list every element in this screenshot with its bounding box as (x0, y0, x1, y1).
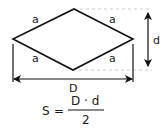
formula-denominator: 2 (82, 113, 90, 127)
formula-numerator: D · d (71, 94, 99, 108)
formula-lhs: S (42, 104, 50, 118)
short-diagonal-label: d (153, 34, 160, 47)
formula-equals: = (54, 104, 64, 118)
rhombus-diagram: a a a a D d S = D · d 2 (0, 0, 165, 129)
side-label-bottom-left: a (32, 52, 39, 65)
side-label-bottom-right: a (109, 52, 116, 65)
side-label-top-right: a (109, 13, 116, 26)
side-label-top-left: a (32, 13, 39, 26)
